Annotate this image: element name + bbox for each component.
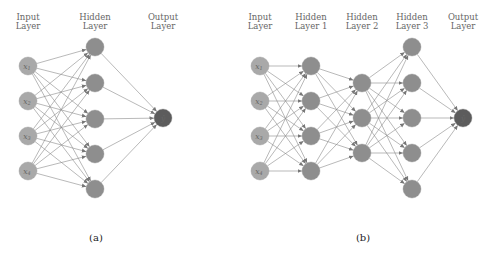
hidden-node [86,110,104,128]
node-label: ŷ [460,114,466,123]
layer-sublabel-hidden3: Layer 3 [396,21,429,31]
layer-sublabel-hidden: Layer [83,21,109,31]
hidden-node [86,145,104,163]
connection-edge [35,53,88,96]
connection-edge [366,55,408,145]
hidden3-node [403,109,421,127]
connection-edge [103,87,155,114]
layer-sublabel-hidden2: Layer 2 [346,21,379,31]
layer-sublabel-input: Layer [16,21,42,31]
connection-edge [319,86,353,98]
connection-edge [33,90,89,164]
hidden3-node [403,144,421,162]
hidden3-node [403,180,421,198]
connection-edge [35,125,88,166]
panel-a-shallow-network: x1x2x3x4ŷInputLayerHiddenLayerOutputLaye… [16,12,179,198]
caption-b: (b) [356,232,370,243]
connection-edge [317,124,356,164]
connection-edge [417,125,457,181]
connection-edge [37,173,87,186]
connection-edge [316,91,358,163]
panel-b-deep-network: x1x2x3x4ŷInputLayerHiddenLayer 1HiddenLa… [248,12,479,198]
layer-sublabel-output: Layer [451,21,477,31]
hidden-node [86,180,104,198]
connection-edge [101,53,157,111]
connection-edge [35,72,88,114]
layer-sublabel-output: Layer [151,21,177,31]
connection-edge [104,118,154,119]
node-label: ŷ [160,114,166,123]
hidden1-node [302,57,320,75]
hidden1-node [302,127,320,145]
hidden1-node [302,92,320,110]
neural-network-figure: x1x2x3x4ŷInputLayerHiddenLayerOutputLaye… [0,0,490,259]
connection-edge [417,54,457,110]
connection-edge [37,49,87,63]
connection-edge [103,122,155,150]
connection-edge [320,69,354,80]
layer-labels: InputLayerHiddenLayer 1HiddenLayer 2Hidd… [248,12,479,31]
hidden2-node [353,109,371,127]
hidden-node [86,38,104,56]
hidden3-node [403,38,421,56]
layer-labels: InputLayerHiddenLayerOutputLayer [16,12,179,31]
layer-sublabel-hidden1: Layer 1 [295,21,328,31]
connection-edge [101,124,157,182]
connection-edge [367,54,407,110]
hidden1-node [302,162,320,180]
connection-edge [366,91,408,181]
connection-edge [367,125,407,181]
connection-edge [317,89,356,129]
layer-sublabel-input: Layer [248,21,274,31]
hidden3-node [403,74,421,92]
hidden-node [86,74,104,92]
caption-a: (a) [89,232,103,243]
hidden2-node [353,144,371,162]
connection-edge [319,156,353,168]
hidden2-node [353,74,371,92]
